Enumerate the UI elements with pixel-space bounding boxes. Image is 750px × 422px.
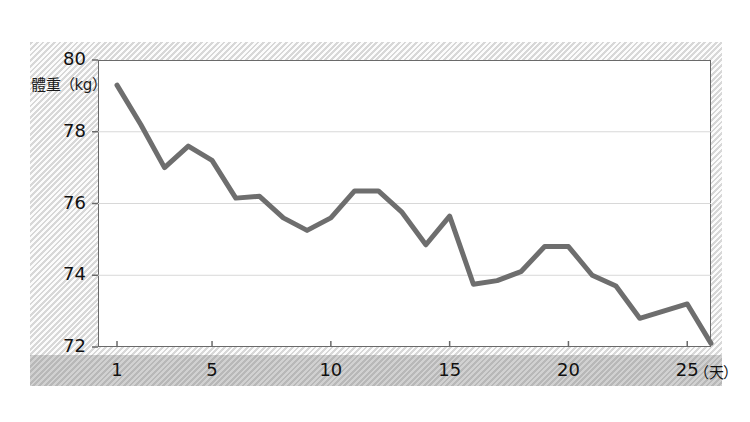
gridlines-group (98, 132, 711, 276)
x-tick-label: 15 (438, 359, 461, 380)
y-axis-label: 體重（kg） (31, 73, 106, 94)
y-tick-label: 72 (52, 335, 86, 356)
x-tick-label: 10 (319, 359, 342, 380)
weight-line-chart: 體重（kg） 7274767880 1510152025 （天） (0, 0, 750, 422)
x-tick-label: 5 (206, 359, 217, 380)
y-tick-label: 80 (52, 48, 86, 69)
weight-data-line (117, 85, 711, 343)
y-tick-label: 74 (52, 263, 86, 284)
x-tick-label: 20 (557, 359, 580, 380)
x-axis-unit-label: （天） (694, 361, 738, 382)
y-tick-label: 76 (52, 192, 86, 213)
y-tick-label: 78 (52, 120, 86, 141)
x-tick-label: 1 (111, 359, 122, 380)
